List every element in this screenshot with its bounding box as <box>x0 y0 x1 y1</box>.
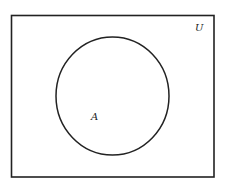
set-a-label: A <box>90 111 98 122</box>
venn-diagram: U A <box>0 0 226 181</box>
universe-rectangle <box>12 16 215 178</box>
universe-label: U <box>195 22 204 33</box>
